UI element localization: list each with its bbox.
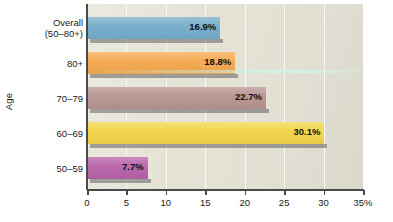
bar-value-label: 18.8%	[191, 56, 231, 67]
gridline	[284, 4, 285, 189]
bar-shadow	[90, 179, 151, 183]
x-axis-tick-label: 0	[84, 197, 89, 208]
category-label: 60–69	[14, 128, 83, 139]
category-label: 80+	[14, 58, 83, 69]
x-axis-tick	[126, 190, 128, 195]
gridline	[324, 4, 325, 189]
category-label-line1: 60–69	[57, 128, 83, 139]
x-axis-tick-label: 30	[318, 197, 329, 208]
x-axis-tick-label: 20	[239, 197, 250, 208]
bar-value-label: 7.7%	[104, 161, 144, 172]
x-axis-tick	[166, 190, 168, 195]
x-axis-tick-label: 25	[279, 197, 290, 208]
bar-row: 18.8%	[87, 52, 239, 78]
y-axis-title: Age	[3, 82, 14, 122]
bar-chart-figure: Age Overall(50–80+)80+70–7960–6950–59 16…	[0, 0, 393, 222]
x-axis-tick-label: 10	[161, 197, 172, 208]
bar-row: 7.7%	[87, 157, 152, 183]
x-axis-line	[87, 189, 364, 191]
bar-value-label: 22.7%	[222, 91, 262, 102]
bar-shadow	[90, 109, 269, 113]
category-label-line1: 80+	[67, 58, 83, 69]
x-axis-tick	[324, 190, 326, 195]
bar-shadow	[90, 74, 238, 78]
x-axis-tick-label: 5	[124, 197, 129, 208]
x-axis-tick	[245, 190, 247, 195]
category-label: 70–79	[14, 93, 83, 104]
x-axis-tick	[205, 190, 207, 195]
x-axis-tick	[284, 190, 286, 195]
category-axis-labels: Overall(50–80+)80+70–7960–6950–59	[14, 11, 83, 187]
bar-value-label: 30.1%	[280, 126, 320, 137]
bar-value-label: 16.9%	[176, 21, 216, 32]
bar-shadow	[90, 144, 327, 148]
category-label: Overall(50–80+)	[14, 17, 83, 39]
plot-area: 16.9%18.8%22.7%30.1%7.7%	[87, 4, 363, 189]
y-axis-line	[86, 4, 88, 190]
bar-shadow	[90, 39, 223, 43]
category-label-line2: (50–80+)	[14, 28, 83, 39]
category-label: 50–59	[14, 163, 83, 174]
x-axis-tick-label: 35%	[353, 197, 372, 208]
category-label-line1: 70–79	[57, 93, 83, 104]
x-axis-tick	[87, 190, 89, 195]
x-axis-tick-label: 15	[200, 197, 211, 208]
category-label-line1: Overall	[53, 17, 83, 28]
bar-row: 30.1%	[87, 122, 328, 148]
bar-row: 22.7%	[87, 87, 270, 113]
category-label-line1: 50–59	[57, 163, 83, 174]
x-axis-tick	[363, 190, 365, 195]
bar-row: 16.9%	[87, 17, 224, 43]
